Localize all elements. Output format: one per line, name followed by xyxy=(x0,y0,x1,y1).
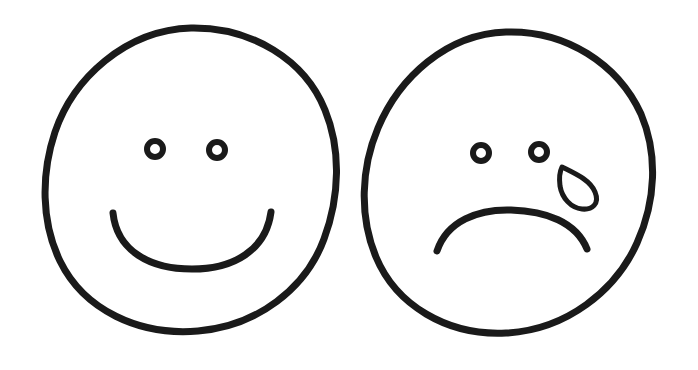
happy-face-figure xyxy=(45,28,336,332)
sad-face-teardrop xyxy=(560,167,597,209)
faces-illustration: Smiley and Sad Face Line Drawing xyxy=(0,0,698,370)
sad-face-frown-mouth xyxy=(437,210,587,251)
sad-face-left-eye xyxy=(473,145,489,161)
happy-face-smile-mouth xyxy=(113,212,271,269)
sad-face-right-eye xyxy=(531,144,547,160)
sad-face-figure xyxy=(364,32,652,333)
happy-face-left-eye xyxy=(147,141,163,157)
sad-left-eye-ring xyxy=(473,145,489,161)
happy-right-eye-ring xyxy=(209,142,225,158)
happy-face-right-eye xyxy=(209,142,225,158)
drawing-canvas: Smiley and Sad Face Line Drawing xyxy=(0,0,698,370)
sad-right-eye-ring xyxy=(531,144,547,160)
happy-left-eye-ring xyxy=(147,141,163,157)
happy-face-head-outline xyxy=(45,28,336,332)
sad-face-head-outline xyxy=(364,32,652,333)
